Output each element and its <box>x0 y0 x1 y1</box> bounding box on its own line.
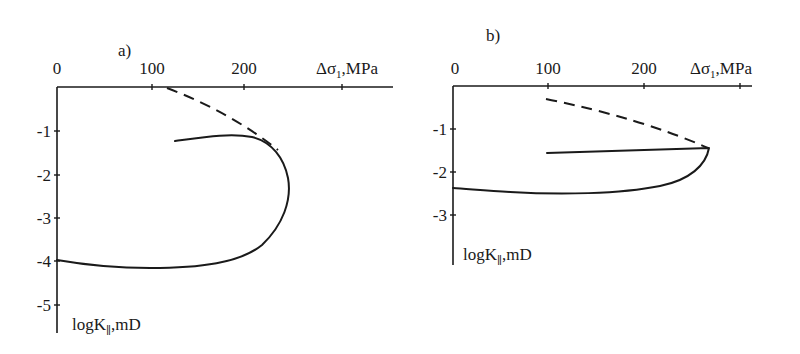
x-tick-label-b-100: 100 <box>535 59 561 78</box>
chart-b: b) 0 100 200 Δσ1,MPa -1 -2 -3 logK∥,mD <box>433 26 753 266</box>
x-tick-label-a-200: 200 <box>231 59 257 78</box>
x-tick-label-b-0: 0 <box>451 59 460 78</box>
panel-label-b: b) <box>486 26 500 45</box>
x-tick-label-a-100: 100 <box>139 59 165 78</box>
y-tick-label-a-2: -2 <box>37 166 51 185</box>
y-tick-label-a-3: -3 <box>37 209 51 228</box>
figure: a) 0 100 200 Δσ1,MPa -1 -2 -3 -4 -5 logK… <box>0 0 800 354</box>
solid-curve-b <box>453 148 709 194</box>
chart-a: a) 0 100 200 Δσ1,MPa -1 -2 -3 -4 -5 logK… <box>37 41 393 336</box>
y-tick-label-b-1: -1 <box>433 120 447 139</box>
solid-curve-a <box>57 135 289 268</box>
x-axis-label-b: Δσ1,MPa <box>690 59 752 80</box>
y-tick-label-b-3: -3 <box>433 206 447 225</box>
y-tick-label-a-1: -1 <box>37 122 51 141</box>
y-tick-label-a-5: -5 <box>37 296 51 315</box>
x-tick-label-a-0: 0 <box>53 59 62 78</box>
x-axis-label-a: Δσ1,MPa <box>316 59 378 80</box>
y-tick-label-a-4: -4 <box>37 252 52 271</box>
dashed-curve-b <box>546 99 708 148</box>
y-tick-label-b-2: -2 <box>433 163 447 182</box>
x-tick-label-b-200: 200 <box>631 59 657 78</box>
y-axis-label-b: logK∥,mD <box>463 245 532 266</box>
panel-label-a: a) <box>118 41 131 60</box>
y-axis-label-a: logK∥,mD <box>72 315 141 336</box>
